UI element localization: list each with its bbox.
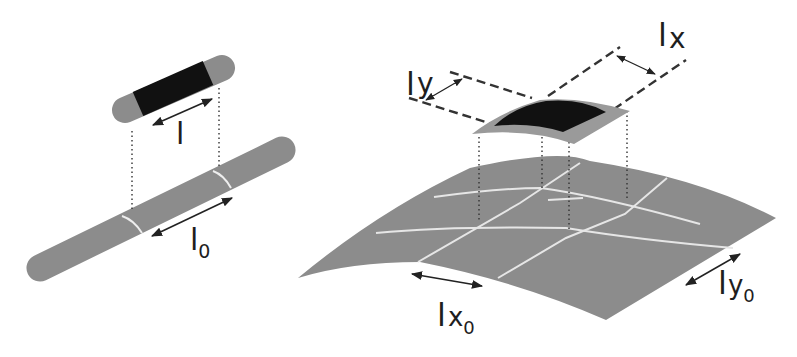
label-l0: l0 <box>190 222 210 262</box>
label-lx0: lx0 <box>437 296 475 338</box>
diagram-canvas: l l0 <box>0 0 797 357</box>
fiber-panel: l l0 <box>40 68 282 268</box>
label-ly0: ly0 <box>718 264 755 306</box>
lx0-arrow <box>412 274 482 286</box>
lx-arrow <box>617 56 655 74</box>
deformed-element <box>125 68 222 110</box>
sheet-panel: ly lx lx0 ly0 <box>298 16 776 338</box>
label-ly: ly <box>406 65 433 103</box>
reference-surface <box>298 156 776 320</box>
label-l: l <box>176 116 184 151</box>
deformed-patch <box>472 99 630 144</box>
reference-rod <box>40 150 282 268</box>
label-lx: lx <box>658 16 685 55</box>
